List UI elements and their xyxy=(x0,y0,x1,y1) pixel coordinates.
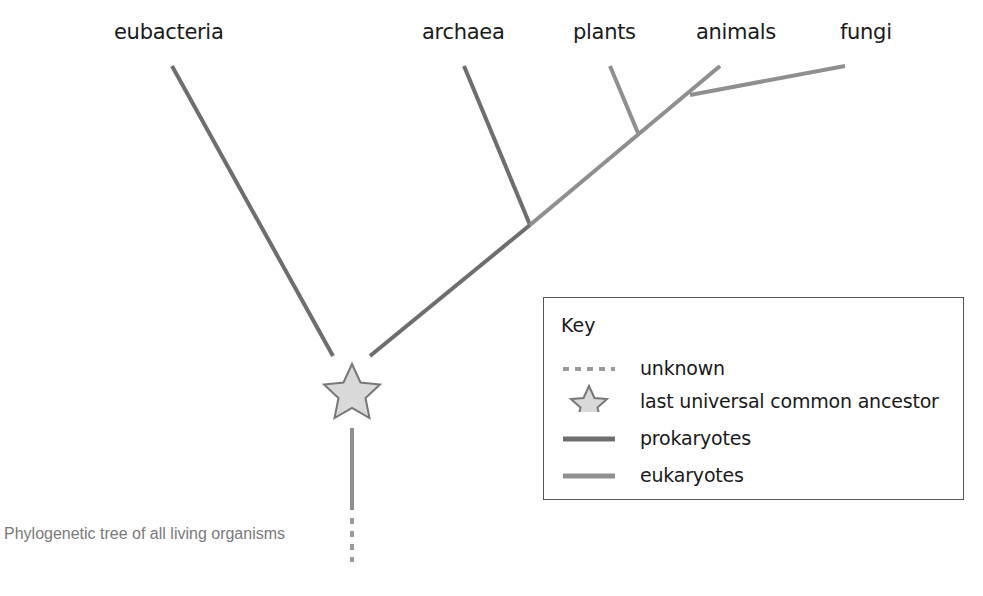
trunk-prokaryote-segment xyxy=(370,225,530,356)
branch-archaea xyxy=(464,66,530,225)
branch-eubacteria xyxy=(172,66,333,356)
legend-item-luca: last universal common ancestor xyxy=(544,388,963,416)
legend-label: last universal common ancestor xyxy=(640,390,939,412)
dashed-line-icon xyxy=(561,355,617,383)
legend-item-eukaryotes: eukaryotes xyxy=(544,462,963,490)
star-icon xyxy=(561,384,617,412)
legend-item-unknown: unknown xyxy=(544,355,963,383)
legend-label: prokaryotes xyxy=(640,427,751,449)
legend-label: unknown xyxy=(640,357,725,379)
legend-label: eukaryotes xyxy=(640,464,744,486)
solid-line-dark-icon xyxy=(561,425,617,453)
trunk-eukaryote-segment xyxy=(530,66,720,225)
taxon-label-plants: plants xyxy=(573,20,636,44)
solid-line-light-icon xyxy=(561,462,617,490)
taxon-label-animals: animals xyxy=(696,20,776,44)
figure-caption: Phylogenetic tree of all living organism… xyxy=(4,522,304,546)
taxon-label-archaea: archaea xyxy=(422,20,504,44)
branch-plants xyxy=(610,66,638,133)
star-icon xyxy=(324,364,380,418)
legend-title: Key xyxy=(561,314,595,336)
taxon-label-eubacteria: eubacteria xyxy=(114,20,223,44)
legend-item-prokaryotes: prokaryotes xyxy=(544,425,963,453)
taxon-label-fungi: fungi xyxy=(840,20,892,44)
legend-box: Key unknown last universal common ancest… xyxy=(543,297,964,500)
